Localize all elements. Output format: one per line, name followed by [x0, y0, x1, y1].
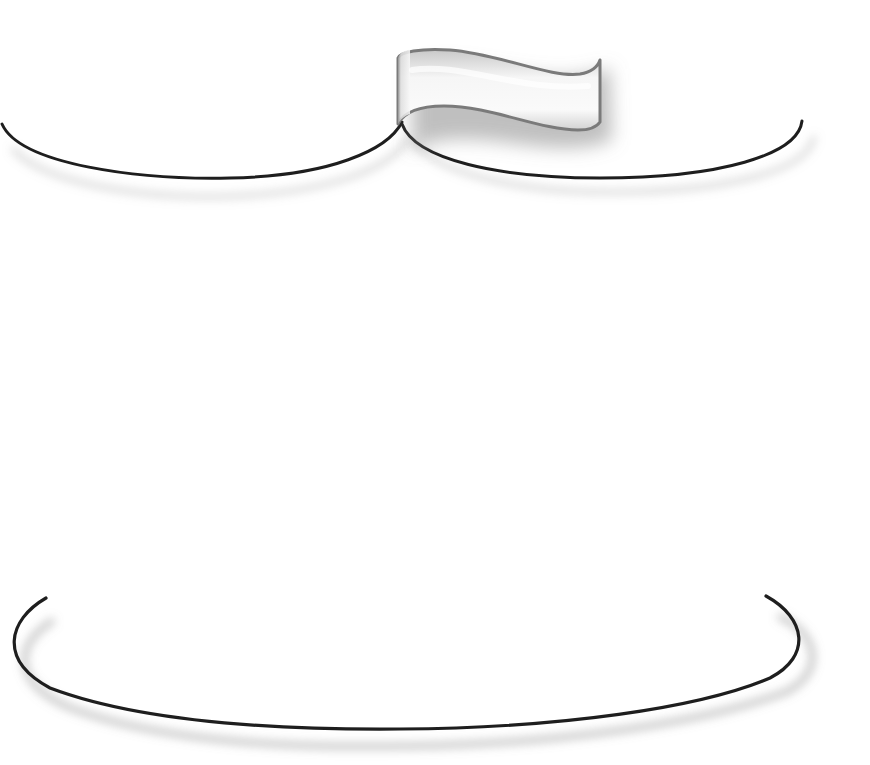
top-left-arc — [2, 122, 402, 178]
top-right-arc-shadow — [414, 136, 814, 192]
bottom-arc — [14, 596, 799, 729]
decorative-frame-illustration — [0, 0, 870, 765]
frame-graphic — [0, 0, 870, 765]
top-left-arc-shadow — [12, 138, 408, 197]
bottom-arc-shadow — [25, 616, 813, 746]
